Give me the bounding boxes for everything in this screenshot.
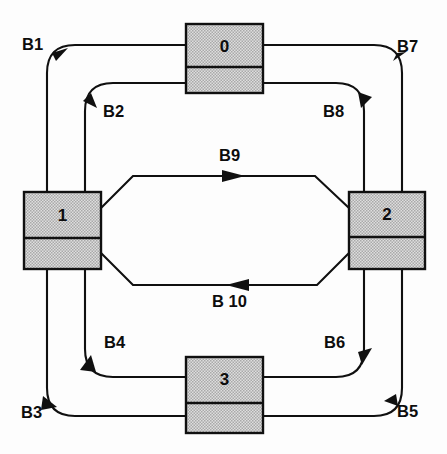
bus-b5-arrowhead xyxy=(384,394,398,406)
bus-b9-edge xyxy=(101,170,349,208)
diagram-canvas: 0 1 2 3 B1 B7 B2 B8 B9 B 10 B4 B6 B3 B5 xyxy=(0,0,447,454)
bus-b1-arrowhead xyxy=(52,48,68,61)
node-3-box[interactable] xyxy=(186,357,263,433)
bus-b4-label: B4 xyxy=(104,334,125,351)
bus-b10-arrowhead xyxy=(226,279,249,291)
node-1-label: 1 xyxy=(24,207,101,224)
bus-b6-label: B6 xyxy=(324,334,345,351)
bus-b8-arrowhead xyxy=(358,92,372,108)
bus-b7-label: B7 xyxy=(397,38,418,55)
node-0-box[interactable] xyxy=(186,24,263,93)
node-2-box[interactable] xyxy=(349,192,425,269)
bus-b6-arrowhead xyxy=(358,348,372,365)
node-3-label: 3 xyxy=(186,371,263,388)
bus-b2-label: B2 xyxy=(103,103,124,120)
bus-b9-label: B9 xyxy=(219,147,240,164)
node-2-label: 2 xyxy=(349,206,425,223)
bus-b10-label: B 10 xyxy=(212,293,247,310)
bus-b10-edge xyxy=(101,253,349,291)
node-3-shape[interactable] xyxy=(186,357,263,433)
node-1-box[interactable] xyxy=(24,192,101,269)
bus-b10-path xyxy=(101,253,349,285)
node-0-shape[interactable] xyxy=(186,24,263,93)
node-1-shape[interactable] xyxy=(24,192,101,269)
node-0-label: 0 xyxy=(186,38,263,55)
node-2-shape[interactable] xyxy=(349,192,425,269)
bus-b1-label: B1 xyxy=(22,36,43,53)
bus-b4-arrowhead xyxy=(80,355,96,372)
bus-b5-label: B5 xyxy=(397,403,418,420)
bus-b3-label: B3 xyxy=(21,404,42,421)
bus-b9-arrowhead xyxy=(222,170,245,182)
bus-b8-label: B8 xyxy=(323,103,344,120)
